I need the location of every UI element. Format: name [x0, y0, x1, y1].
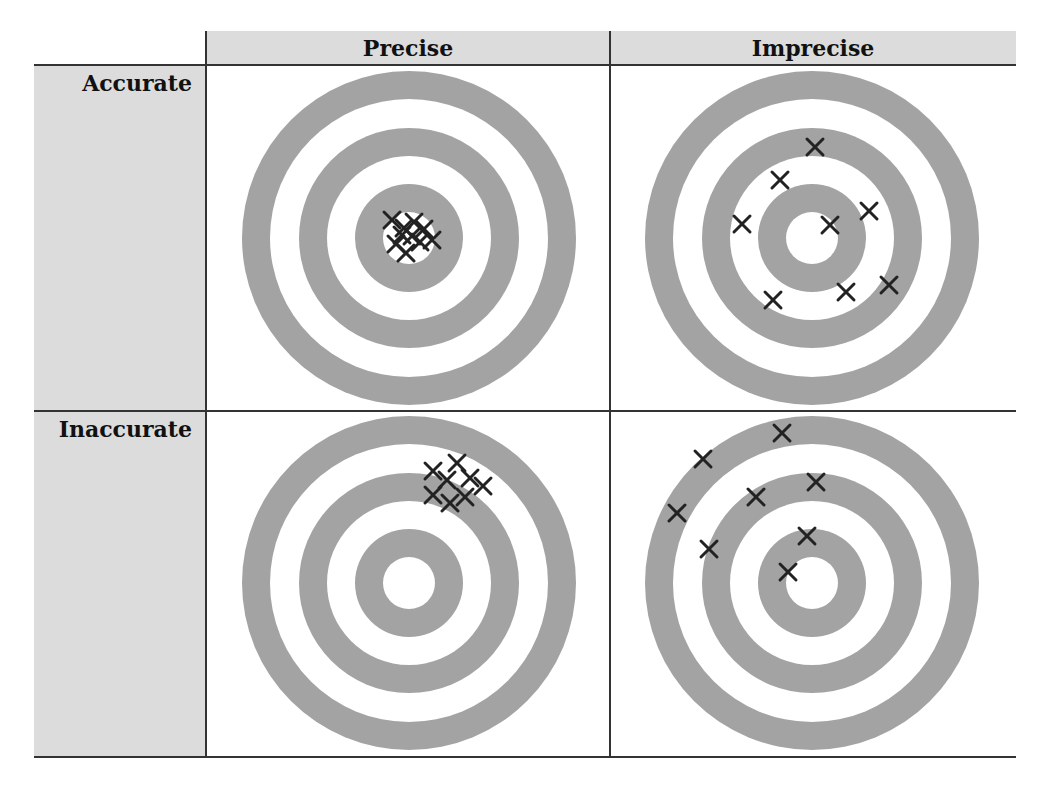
- target-accurate-imprecise: [610, 65, 1016, 411]
- row-label-accurate: Accurate: [34, 70, 192, 96]
- column-divider: [609, 31, 611, 757]
- target-inaccurate-precise: [206, 411, 610, 757]
- column-label-imprecise: Imprecise: [610, 32, 1016, 64]
- row-label-inaccurate: Inaccurate: [34, 416, 192, 442]
- target-ring: [383, 557, 435, 609]
- row-header-divider: [205, 31, 207, 757]
- header-divider: [34, 64, 1016, 66]
- column-label-precise: Precise: [206, 32, 610, 64]
- target-ring: [786, 212, 838, 264]
- row-divider: [34, 410, 1016, 412]
- target-inaccurate-imprecise: [610, 411, 1016, 757]
- table-bottom-border: [34, 756, 1016, 758]
- target-accurate-precise: [206, 65, 610, 411]
